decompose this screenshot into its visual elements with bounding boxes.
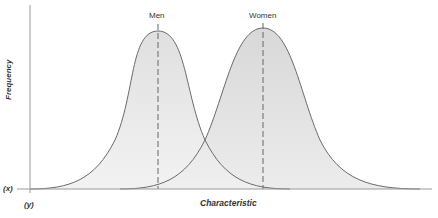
x-axis-marker: (x)	[3, 184, 13, 193]
men-label: Men	[149, 11, 165, 20]
x-axis-label: Characteristic	[200, 198, 257, 208]
y-axis-marker: (y)	[24, 200, 34, 209]
women-label: Women	[249, 11, 276, 20]
y-axis-label: Frequency	[4, 60, 13, 100]
distribution-chart	[0, 0, 438, 218]
